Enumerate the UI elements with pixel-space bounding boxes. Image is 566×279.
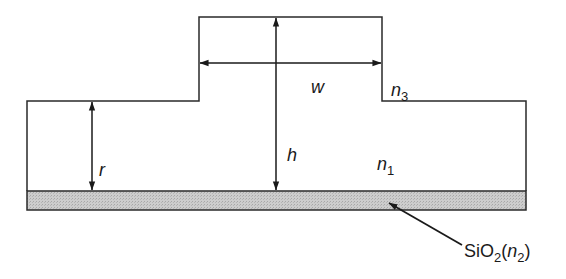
rib-waveguide-diagram: w n3 h n1 r SiO2(n2) (0, 0, 566, 279)
substrate-label: SiO2(n2) (464, 241, 531, 265)
substrate-index-subscript: 2 (517, 250, 524, 265)
substrate-prefix-subscript: 2 (494, 250, 501, 265)
cover-index-symbol: n (391, 80, 401, 100)
substrate-close-paren: ) (525, 241, 531, 261)
slab-height-label: r (99, 160, 106, 180)
width-label: w (311, 77, 325, 97)
core-index-symbol: n (377, 154, 387, 174)
substrate-prefix: SiO (464, 241, 494, 261)
substrate-index-symbol: n (507, 241, 517, 261)
core-index-subscript: 1 (387, 163, 394, 178)
cover-index-subscript: 3 (401, 89, 408, 104)
height-label: h (287, 145, 297, 165)
substrate-layer (27, 191, 526, 210)
core-index-label: n1 (377, 154, 394, 178)
